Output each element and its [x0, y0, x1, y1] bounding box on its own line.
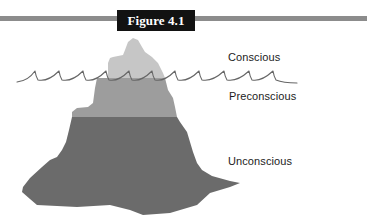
iceberg-conscious-layer — [107, 38, 165, 78]
iceberg-diagram — [0, 0, 373, 221]
label-conscious: Conscious — [228, 51, 280, 64]
iceberg-unconscious-layer — [22, 117, 240, 215]
label-preconscious: Preconscious — [229, 90, 296, 103]
iceberg-preconscious-layer — [72, 78, 177, 117]
label-unconscious: Unconscious — [228, 155, 292, 168]
